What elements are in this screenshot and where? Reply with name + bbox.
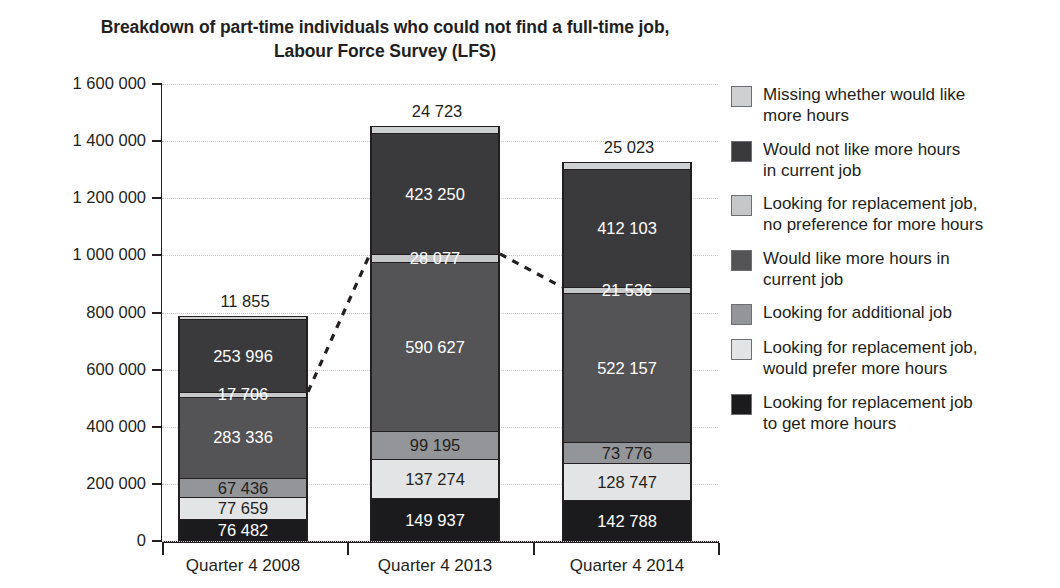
y-tick-label: 400 000 — [6, 417, 146, 436]
y-tick-mark — [152, 312, 162, 314]
bar-segment[interactable]: 283 336 — [180, 397, 306, 478]
segment-value-label: 283 336 — [213, 429, 273, 446]
bar-1[interactable]: 11 855253 99617 706283 33667 43677 65976… — [178, 316, 308, 541]
segment-value-label: 149 937 — [405, 512, 465, 529]
y-tick-label: 1 600 000 — [6, 74, 146, 93]
x-category-label-2: Quarter 4 2013 — [345, 556, 525, 576]
y-tick-mark — [152, 426, 162, 428]
gridline — [162, 541, 718, 542]
x-tick-mark — [533, 543, 535, 555]
bar-segment[interactable]: 76 482 — [180, 519, 306, 541]
y-tick-label: 1 400 000 — [6, 131, 146, 150]
legend-item-7[interactable]: Looking for replacement jobto get more h… — [731, 392, 1053, 435]
legend-item-5[interactable]: Looking for additional job — [731, 302, 1053, 325]
y-tick-label: 1 200 000 — [6, 188, 146, 207]
bar-segment[interactable]: 28 077 — [372, 254, 498, 262]
bar-segment[interactable]: 423 250 — [372, 133, 498, 254]
segment-value-label: 137 274 — [405, 471, 465, 488]
segment-value-label: 590 627 — [405, 339, 465, 356]
y-tick-mark — [152, 197, 162, 199]
x-tick-mark — [162, 543, 164, 555]
segment-value-label: 73 776 — [602, 445, 652, 462]
segment-value-label: 412 103 — [597, 220, 657, 237]
legend-label: Looking for replacement job,would prefer… — [763, 337, 978, 380]
legend-item-1[interactable]: Missing whether would likemore hours — [731, 84, 1053, 127]
bar-top-value-label: 11 855 — [165, 292, 325, 311]
bar-segment[interactable] — [372, 126, 498, 133]
chart-title-line-2: Labour Force Survey (LFS) — [40, 40, 730, 64]
legend-swatch-icon — [731, 394, 752, 415]
legend-label: Looking for additional job — [763, 302, 952, 323]
legend-item-2[interactable]: Would not like more hoursin current job — [731, 139, 1053, 182]
x-category-label-3: Quarter 4 2014 — [537, 556, 717, 576]
bar-segment[interactable]: 77 659 — [180, 497, 306, 519]
y-tick-mark — [152, 83, 162, 85]
bar-2[interactable]: 24 723423 25028 077590 62799 195137 2741… — [370, 126, 500, 541]
segment-value-label: 99 195 — [410, 437, 460, 454]
x-category-label-1: Quarter 4 2008 — [153, 556, 333, 576]
legend-item-3[interactable]: Looking for replacement job,no preferenc… — [731, 193, 1053, 236]
y-tick-label: 0 — [6, 531, 146, 550]
segment-value-label: 67 436 — [218, 480, 268, 497]
bar-segment[interactable]: 149 937 — [372, 498, 498, 541]
y-tick-mark — [152, 369, 162, 371]
y-tick-mark — [152, 140, 162, 142]
legend-swatch-icon — [731, 250, 752, 271]
bar-segment[interactable]: 142 788 — [564, 500, 690, 541]
segment-value-label: 128 747 — [597, 474, 657, 491]
legend-item-4[interactable]: Would like more hours incurrent job — [731, 248, 1053, 291]
bar-segment[interactable]: 73 776 — [564, 442, 690, 463]
bar-segment[interactable]: 253 996 — [180, 319, 306, 392]
legend: Missing whether would likemore hoursWoul… — [731, 84, 1053, 446]
legend-label: Missing whether would likemore hours — [763, 84, 965, 127]
y-tick-mark — [152, 540, 162, 542]
bar-top-value-label: 25 023 — [549, 138, 709, 157]
legend-label: Would not like more hoursin current job — [763, 139, 960, 182]
y-tick-mark — [152, 483, 162, 485]
segment-value-label: 76 482 — [218, 522, 268, 539]
y-tick-label: 1 000 000 — [6, 245, 146, 264]
bar-segment[interactable]: 412 103 — [564, 169, 690, 287]
y-tick-mark — [152, 254, 162, 256]
bar-segment[interactable]: 67 436 — [180, 478, 306, 497]
bar-segment[interactable]: 128 747 — [564, 463, 690, 500]
segment-value-label: 21 536 — [602, 282, 652, 299]
segment-value-label: 522 157 — [597, 360, 657, 377]
bar-segment[interactable]: 99 195 — [372, 431, 498, 459]
y-tick-label: 600 000 — [6, 360, 146, 379]
x-tick-mark — [718, 543, 720, 555]
segment-value-label: 17 706 — [218, 386, 268, 403]
y-tick-label: 800 000 — [6, 303, 146, 322]
legend-swatch-icon — [731, 304, 752, 325]
legend-label: Looking for replacement job,no preferenc… — [763, 193, 983, 236]
legend-swatch-icon — [731, 141, 752, 162]
bar-segment[interactable]: 137 274 — [372, 459, 498, 498]
chart-page: Breakdown of part-time individuals who c… — [0, 0, 1060, 588]
x-tick-mark — [347, 543, 349, 555]
segment-value-label: 253 996 — [213, 348, 273, 365]
segment-value-label: 423 250 — [405, 186, 465, 203]
segment-value-label: 142 788 — [597, 513, 657, 530]
bar-3[interactable]: 25 023412 10321 536522 15773 776128 7471… — [562, 162, 692, 541]
bar-top-value-label: 24 723 — [357, 102, 517, 121]
page-title: Breakdown of part-time individuals who c… — [40, 16, 730, 63]
bar-segment[interactable]: 522 157 — [564, 293, 690, 442]
legend-swatch-icon — [731, 195, 752, 216]
legend-swatch-icon — [731, 86, 752, 107]
legend-label: Looking for replacement jobto get more h… — [763, 392, 973, 435]
segment-value-label: 77 659 — [218, 500, 268, 517]
bar-segment[interactable]: 590 627 — [372, 262, 498, 431]
legend-swatch-icon — [731, 339, 752, 360]
segment-value-label: 28 077 — [410, 250, 460, 267]
gridline — [162, 84, 718, 85]
legend-label: Would like more hours incurrent job — [763, 248, 950, 291]
legend-item-6[interactable]: Looking for replacement job,would prefer… — [731, 337, 1053, 380]
chart-title-line-1: Breakdown of part-time individuals who c… — [40, 16, 730, 40]
y-axis: 0200 000400 000600 000800 0001 000 0001 … — [0, 84, 146, 542]
y-tick-label: 200 000 — [6, 474, 146, 493]
bar-segment[interactable] — [564, 162, 690, 169]
